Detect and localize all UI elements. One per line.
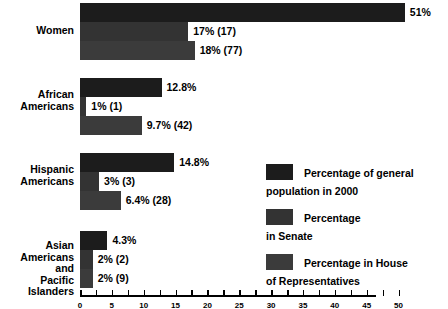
axis-tick [271, 290, 273, 296]
axis-tick [112, 290, 114, 296]
legend-swatch [266, 209, 293, 225]
bar-value-label: 6.4% (28) [126, 194, 172, 206]
bar-value-label: 51% [410, 6, 431, 18]
bar-value-label: 1% (1) [91, 100, 122, 112]
bar [80, 250, 93, 269]
axis-tick [351, 290, 353, 296]
bar-value-label: 3% (3) [104, 175, 135, 187]
axis-tick [367, 290, 369, 296]
bar [80, 269, 93, 288]
bar [80, 97, 86, 116]
legend-item: Percentage of general population in 2000 [266, 163, 446, 199]
bar-value-label: 2% (9) [98, 272, 129, 284]
axis-tick-label: 35 [298, 301, 307, 309]
category-label: African Americans [0, 89, 74, 112]
axis-tick-label: 15 [171, 301, 180, 309]
axis-tick [335, 290, 337, 296]
bar-value-label: 18% (77) [200, 44, 243, 56]
axis-tick [144, 290, 146, 296]
bar [80, 172, 99, 191]
bar [80, 191, 121, 210]
axis-tick [303, 290, 305, 296]
axis-tick [207, 290, 209, 296]
axis-tick-label: 45 [362, 301, 371, 309]
axis-tick [319, 290, 321, 296]
grouped-bar-chart: Percentage of general population in 2000… [0, 0, 448, 309]
axis-tick-label: 30 [267, 301, 276, 309]
axis-tick [80, 290, 82, 296]
axis-tick [128, 290, 130, 296]
bar-value-label: 9.7% (42) [147, 119, 193, 131]
axis-tick [96, 290, 98, 296]
axis-tick [255, 290, 257, 296]
bar [80, 153, 174, 172]
bar [80, 116, 142, 135]
x-axis-line [80, 295, 376, 297]
bar-value-label: 2% (2) [98, 253, 129, 265]
category-label: Hispanic Americans [0, 164, 74, 187]
chart-legend: Percentage of general population in 2000… [266, 163, 446, 298]
bar [80, 78, 162, 97]
bar [80, 22, 188, 41]
bar-value-label: 12.8% [167, 81, 197, 93]
bar [80, 3, 405, 22]
bar-value-label: 4.3% [112, 234, 136, 246]
axis-tick [223, 290, 225, 296]
axis-tick-label: 20 [203, 301, 212, 309]
category-label: Women [0, 25, 74, 37]
axis-tick [191, 290, 193, 296]
axis-tick-label: 50 [394, 301, 403, 309]
axis-tick-label: 10 [139, 301, 148, 309]
bar [80, 41, 195, 60]
axis-tick-label: 25 [235, 301, 244, 309]
axis-tick [176, 290, 178, 296]
axis-tick-label: 5 [110, 301, 114, 309]
legend-item: Percentage in House of Representatives [266, 253, 446, 289]
bar [80, 231, 107, 250]
legend-swatch [266, 254, 293, 270]
axis-tick [287, 290, 289, 296]
legend-swatch [266, 164, 293, 180]
legend-item: Percentage in Senate [266, 208, 446, 244]
axis-tick-label: 0 [78, 301, 82, 309]
axis-tick-label: 40 [330, 301, 339, 309]
bar-value-label: 14.8% [179, 156, 209, 168]
axis-tick [239, 290, 241, 296]
category-label: Asian Americans and Pacific Islanders [0, 240, 74, 298]
axis-tick [399, 290, 401, 296]
x-axis: 05101520253035404550 [80, 295, 376, 309]
bar-value-label: 17% (17) [193, 25, 236, 37]
axis-tick [160, 290, 162, 296]
axis-tick [383, 290, 385, 296]
